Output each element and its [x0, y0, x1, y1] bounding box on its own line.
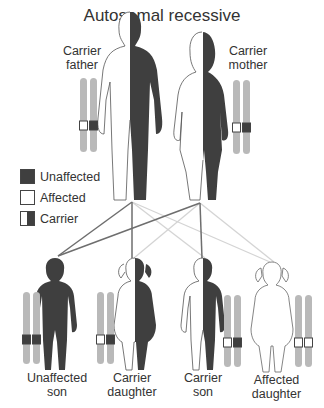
child-carrier-daughter-figure — [110, 250, 160, 375]
child-label-line1: Carrier — [168, 371, 238, 385]
legend-item-affected: Affected — [20, 190, 86, 205]
child3-chromosomes — [224, 295, 242, 367]
inheritance-lines-light — [132, 202, 274, 262]
legend-label: Affected — [40, 191, 86, 205]
legend-label: Carrier — [40, 212, 78, 226]
legend-swatch-half — [20, 211, 35, 226]
child-carrier-son-figure — [178, 250, 228, 375]
legend-item-carrier: Carrier — [20, 211, 78, 226]
child-label-carrier-daughter: Carrier daughter — [97, 371, 167, 399]
legend-label: Unaffected — [40, 170, 100, 184]
child-label-line2: daughter — [97, 385, 167, 399]
child-label-line2: daughter — [239, 387, 314, 401]
child-label-line1: Unaffected — [22, 371, 92, 385]
mother-figure — [170, 20, 236, 210]
father-chromosomes — [80, 78, 98, 152]
legend-swatch-white — [20, 190, 35, 205]
legend-item-unaffected: Unaffected — [20, 169, 100, 184]
child4-chromosomes — [295, 295, 313, 367]
child1-chromosomes — [23, 292, 41, 364]
inheritance-lines-dark — [58, 202, 202, 258]
child-label-affected-daughter: Affected daughter — [239, 373, 314, 401]
child-label-line1: Affected — [239, 373, 314, 387]
legend-swatch-dark — [20, 169, 35, 184]
child-label-carrier-son: Carrier son — [168, 371, 238, 399]
father-figure — [90, 0, 170, 210]
child-label-line1: Carrier — [97, 371, 167, 385]
child-label-unaffected-son: Unaffected son — [22, 371, 92, 399]
child2-chromosomes — [97, 292, 115, 364]
child-label-line2: son — [168, 385, 238, 399]
child-affected-daughter-figure — [251, 262, 293, 372]
mother-chromosomes — [233, 80, 251, 154]
child-label-line2: son — [22, 385, 92, 399]
